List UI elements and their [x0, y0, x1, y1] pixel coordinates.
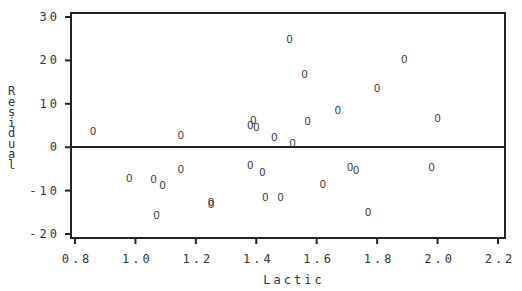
data-point-marker: 0	[305, 115, 311, 127]
x-tick-label: 1.6	[303, 252, 334, 266]
data-point-marker: 0	[320, 178, 326, 190]
y-tick-label: 30	[40, 10, 60, 24]
data-point-marker: 0	[247, 159, 253, 171]
data-point-marker: 0	[335, 104, 341, 116]
y-tick-label: 20	[40, 53, 60, 67]
data-point-marker: 0	[178, 129, 184, 141]
x-tick-label: 1.8	[364, 252, 395, 266]
data-point-marker: 0	[428, 161, 434, 173]
data-point-marker: 0	[208, 198, 214, 210]
x-tick-label: 1.0	[122, 252, 153, 266]
data-point-marker: 0	[253, 121, 259, 133]
data-point-marker: 0	[178, 163, 184, 175]
x-tick-label: 2.0	[424, 252, 455, 266]
y-tick-label: 10	[40, 97, 60, 111]
data-points: 000000000000000000000000000000	[90, 33, 441, 221]
x-tick-label: 1.4	[243, 252, 274, 266]
data-point-marker: 0	[435, 112, 441, 124]
data-point-marker: 0	[277, 191, 283, 203]
y-tick-label: -20	[29, 227, 60, 241]
data-point-marker: 0	[90, 125, 96, 137]
data-point-marker: 0	[302, 68, 308, 80]
data-point-marker: 0	[365, 206, 371, 218]
x-tick-label: 2.2	[485, 252, 516, 266]
data-point-marker: 0	[154, 209, 160, 221]
data-point-marker: 0	[150, 173, 156, 185]
y-tick-label: -10	[29, 184, 60, 198]
data-point-marker: 0	[353, 164, 359, 176]
y-axis-label: Residual	[8, 84, 18, 172]
data-point-marker: 0	[271, 131, 277, 143]
data-point-marker: 0	[126, 172, 132, 184]
x-tick-label: 0.8	[62, 252, 93, 266]
data-point-marker: 0	[259, 166, 265, 178]
x-axis-ticks: 0.81.01.21.41.61.82.02.2	[62, 238, 516, 266]
plot-frame	[71, 13, 505, 238]
y-tick-label: 0	[50, 140, 60, 154]
residual-scatter-plot: -20-100102030 0.81.01.21.41.61.82.02.2 0…	[0, 0, 522, 291]
data-point-marker: 0	[160, 179, 166, 191]
data-point-marker: 0	[289, 137, 295, 149]
y-axis-label-char: l	[8, 158, 18, 172]
x-tick-label: 1.2	[183, 252, 214, 266]
data-point-marker: 0	[262, 191, 268, 203]
data-point-marker: 0	[401, 53, 407, 65]
data-point-marker: 0	[286, 33, 292, 45]
x-axis-label: Lactic	[263, 273, 324, 287]
data-point-marker: 0	[374, 82, 380, 94]
y-axis-ticks: -20-100102030	[29, 10, 71, 241]
